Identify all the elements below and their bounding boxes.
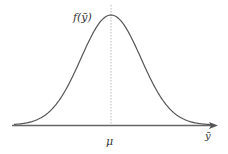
mean-label: μ [106,135,113,148]
curve-label: f(ȳ) [72,11,92,24]
axis-label: ȳ [204,130,211,141]
density-curve [14,15,212,125]
normal-density-diagram: f(ȳ) μ ȳ [0,0,228,154]
